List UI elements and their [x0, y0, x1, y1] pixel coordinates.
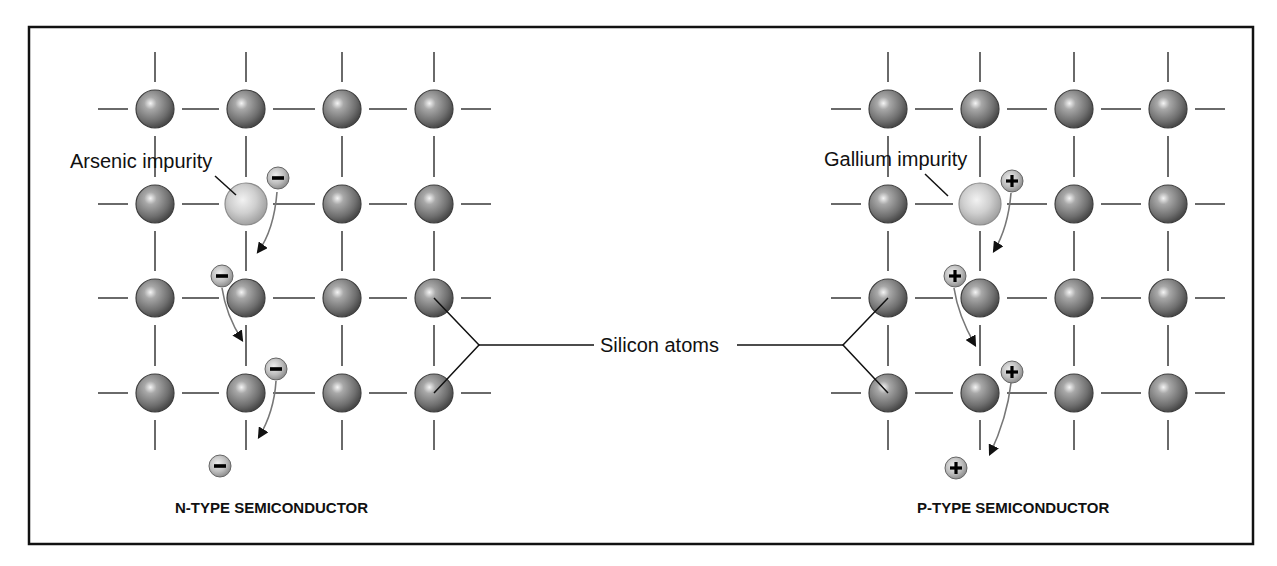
silicon-atom	[136, 374, 174, 412]
gallium-leader-line	[925, 174, 948, 196]
silicon-atom	[1055, 185, 1093, 223]
silicon-atom	[227, 90, 265, 128]
p-type-title: P-TYPE SEMICONDUCTOR	[917, 499, 1109, 516]
n-type-lattice	[98, 52, 491, 450]
silicon-atom	[1055, 279, 1093, 317]
silicon-atom	[961, 90, 999, 128]
silicon-atom	[869, 185, 907, 223]
silicon-atom	[1149, 90, 1187, 128]
hole-carrier	[1001, 170, 1023, 192]
silicon-atoms-label: Silicon atoms	[600, 334, 719, 356]
impurity-atom	[959, 183, 1001, 225]
hole-carrier	[945, 457, 967, 479]
electron-carrier	[209, 455, 231, 477]
gallium-impurity-label: Gallium impurity	[824, 148, 967, 170]
hole-carrier	[1001, 361, 1023, 383]
silicon-atom	[1149, 279, 1187, 317]
silicon-atom	[1055, 90, 1093, 128]
minus-icon	[272, 176, 284, 180]
silicon-atom	[227, 374, 265, 412]
silicon-atom	[415, 185, 453, 223]
minus-icon	[270, 367, 282, 371]
silicon-atom	[136, 185, 174, 223]
arsenic-leader-line	[215, 176, 236, 195]
silicon-atom	[136, 279, 174, 317]
silicon-atom	[323, 279, 361, 317]
silicon-atom	[227, 279, 265, 317]
minus-icon	[214, 464, 226, 468]
silicon-atom	[415, 90, 453, 128]
silicon-atom	[323, 374, 361, 412]
p-type-lattice	[831, 52, 1225, 450]
semiconductor-diagram: Arsenic impurity Gallium impurity Silico…	[0, 0, 1277, 566]
electron-carrier	[267, 167, 289, 189]
arsenic-impurity-label: Arsenic impurity	[70, 150, 212, 172]
silicon-atom	[961, 279, 999, 317]
silicon-atom	[323, 185, 361, 223]
n-type-title: N-TYPE SEMICONDUCTOR	[175, 499, 368, 516]
minus-icon	[216, 274, 228, 278]
hole-carrier	[944, 265, 966, 287]
silicon-atom	[961, 374, 999, 412]
impurity-atom	[225, 183, 267, 225]
silicon-atom	[136, 90, 174, 128]
silicon-atom	[1055, 374, 1093, 412]
silicon-atom	[323, 90, 361, 128]
silicon-atom	[1149, 185, 1187, 223]
silicon-atom	[869, 90, 907, 128]
electron-carrier	[211, 265, 233, 287]
silicon-atom	[1149, 374, 1187, 412]
electron-carrier	[265, 358, 287, 380]
